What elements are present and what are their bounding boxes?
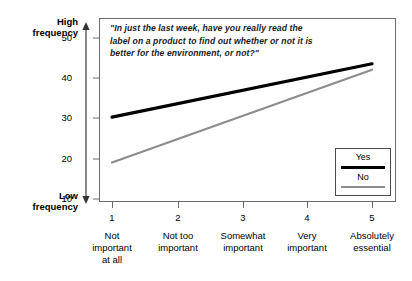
- x-tick-caption-4-line1: Very: [270, 230, 344, 242]
- x-tick-caption-4-line2: important: [270, 242, 344, 254]
- y-tick-label-10: 10: [50, 194, 72, 204]
- x-tick-caption-1-line3: at all: [75, 254, 149, 266]
- y-tick-label-40: 40: [50, 73, 72, 83]
- x-tick-mark-2: [178, 202, 179, 208]
- series-line-no: [112, 70, 372, 163]
- x-tick-number-5: 5: [352, 212, 392, 223]
- x-tick-number-3: 3: [223, 212, 263, 223]
- x-tick-caption-4: Very important: [270, 230, 344, 254]
- legend-swatch-yes: [341, 166, 385, 169]
- y-tick-label-20: 20: [50, 154, 72, 164]
- x-tick-caption-3-line2: important: [206, 242, 280, 254]
- y-tick-label-50: 50: [50, 33, 72, 43]
- x-tick-caption-1: Not important at all: [75, 230, 149, 266]
- x-tick-caption-3: Somewhat important: [206, 230, 280, 254]
- x-tick-caption-5-line1: Absolutely: [335, 230, 409, 242]
- x-tick-number-4: 4: [287, 212, 327, 223]
- x-tick-caption-1-line1: Not: [75, 230, 149, 242]
- x-tick-caption-5-line2: essential: [335, 242, 409, 254]
- high-frequency-line1: High: [6, 16, 78, 27]
- x-tick-mark-4: [307, 202, 308, 208]
- chart-legend: Yes No: [335, 148, 391, 196]
- x-tick-caption-5: Absolutely essential: [335, 230, 409, 254]
- x-tick-number-2: 2: [158, 212, 198, 223]
- x-tick-caption-2: Not too important: [141, 230, 215, 254]
- x-tick-number-1: 1: [92, 212, 132, 223]
- legend-entry-yes: Yes: [341, 152, 385, 169]
- legend-label-no: No: [341, 172, 385, 183]
- chart-container: High frequency Low frequency 50 40 30 20…: [0, 0, 412, 281]
- x-tick-caption-2-line1: Not too: [141, 230, 215, 242]
- x-tick-mark-3: [243, 202, 244, 208]
- legend-swatch-no: [341, 186, 385, 188]
- y-tick-label-30: 30: [50, 113, 72, 123]
- x-tick-mark-1: [112, 202, 113, 208]
- x-tick-mark-5: [372, 202, 373, 208]
- x-tick-caption-2-line2: important: [141, 242, 215, 254]
- legend-entry-no: No: [341, 172, 385, 188]
- x-tick-caption-1-line2: important: [75, 242, 149, 254]
- legend-label-yes: Yes: [341, 152, 385, 163]
- x-tick-caption-3-line1: Somewhat: [206, 230, 280, 242]
- series-line-yes: [112, 64, 372, 117]
